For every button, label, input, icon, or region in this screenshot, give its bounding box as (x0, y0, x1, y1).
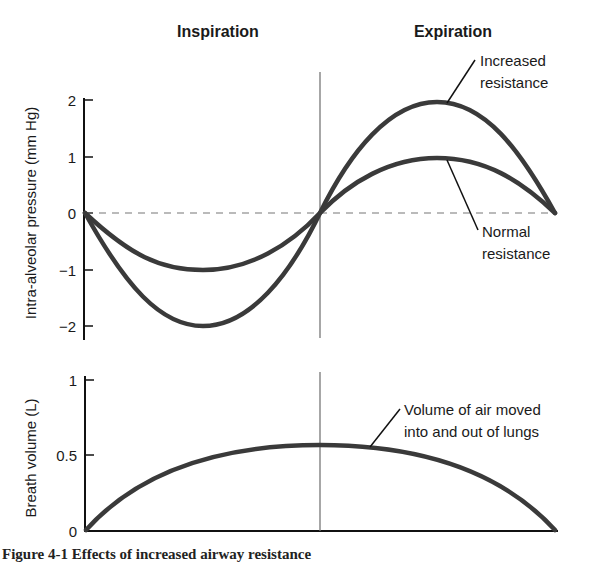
figure-caption: Figure 4-1 Effects of increased airway r… (2, 546, 311, 563)
tick-label: 1 (68, 149, 76, 166)
tick-label: 0 (68, 205, 76, 222)
phase-label-inspiration: Inspiration (177, 23, 259, 40)
phase-label-expiration: Expiration (414, 23, 492, 40)
tick-label: −1 (59, 262, 76, 279)
tick-label: 2 (68, 92, 76, 109)
normal-resistance-label-line2: resistance (482, 245, 550, 262)
pressure-y-tick-labels: 2 1 0 −1 −2 (59, 92, 76, 335)
normal-resistance-label-line1: Normal (482, 223, 530, 240)
increased-resistance-label-line2: resistance (480, 74, 548, 91)
pressure-chart: Intra-alveolar pressure (mm Hg) 2 1 0 −1… (22, 52, 556, 340)
volume-y-axis-label: Breath volume (L) (22, 398, 39, 517)
normal-resistance-leader (447, 160, 478, 230)
tick-label: −2 (59, 318, 76, 335)
tick-label: 1 (69, 372, 77, 389)
volume-label-line1: Volume of air moved (404, 401, 541, 418)
volume-leader (370, 409, 400, 447)
pressure-y-axis-label: Intra-alveolar pressure (mm Hg) (22, 107, 39, 320)
increased-resistance-leader (447, 60, 475, 103)
volume-y-ticks (85, 380, 94, 455)
tick-label: 0.5 (56, 447, 77, 464)
increased-resistance-label-line1: Increased (480, 52, 546, 69)
tick-label: 0 (69, 523, 77, 540)
volume-y-tick-labels: 1 0.5 0 (56, 372, 77, 540)
volume-label-line2: into and out of lungs (404, 423, 539, 440)
volume-chart: Breath volume (L) 1 0.5 0 Volume of air … (22, 372, 558, 540)
